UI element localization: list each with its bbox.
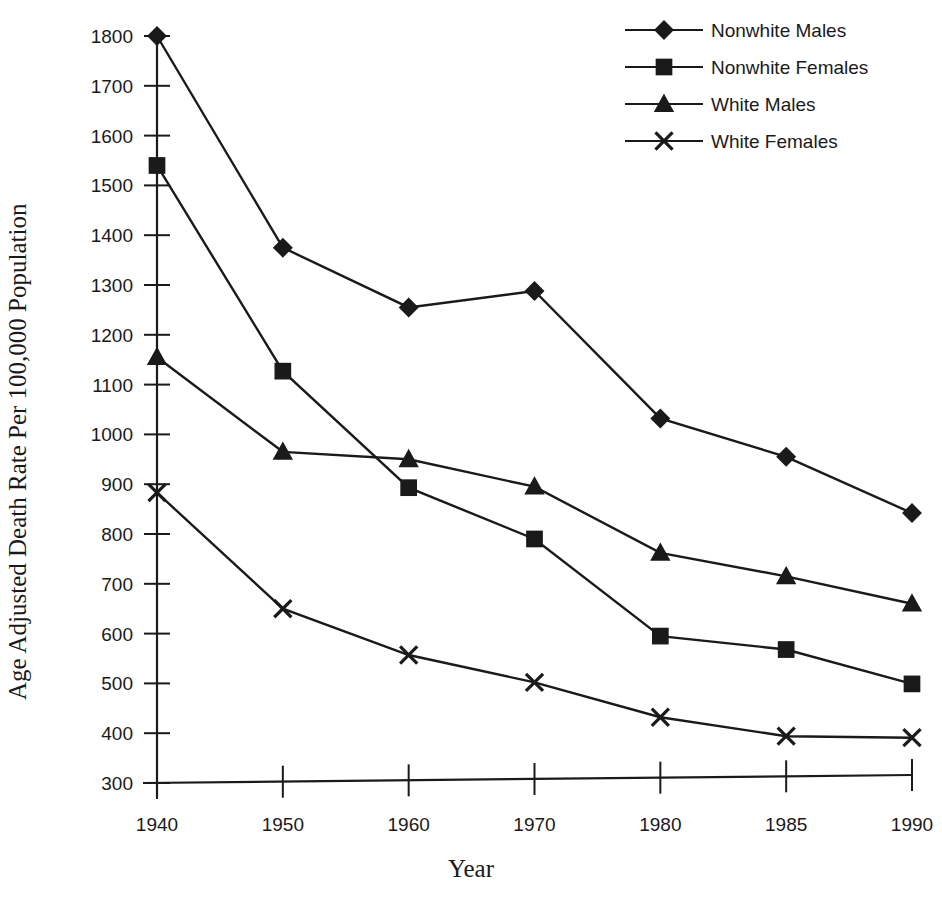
- marker-triangle: [651, 544, 669, 560]
- legend-item-nonwhite-males[interactable]: Nonwhite Males: [625, 20, 846, 41]
- marker-square: [656, 59, 671, 74]
- y-tick-label: 400: [101, 723, 133, 744]
- y-tick-label: 1200: [91, 325, 133, 346]
- marker-square: [401, 480, 416, 495]
- marker-diamond: [903, 504, 921, 522]
- x-axis-line: [143, 775, 912, 783]
- marker-triangle: [274, 443, 292, 459]
- chart-figure: Age Adjusted Death Rate Per 100,000 Popu…: [0, 0, 942, 897]
- y-tick-label: 600: [101, 624, 133, 645]
- marker-square: [779, 642, 794, 657]
- y-tick-label: 800: [101, 524, 133, 545]
- y-tick-label: 1600: [91, 126, 133, 147]
- marker-diamond: [274, 239, 292, 257]
- y-tick-label: 1400: [91, 225, 133, 246]
- legend-item-nonwhite-females[interactable]: Nonwhite Females: [625, 57, 868, 78]
- x-tick-label: 1985: [765, 814, 807, 835]
- x-tick-label: 1970: [513, 814, 555, 835]
- marker-square: [149, 158, 164, 173]
- marker-triangle: [148, 348, 166, 364]
- marker-square: [527, 531, 542, 546]
- x-tick-label: 1980: [639, 814, 681, 835]
- legend-item-white-males[interactable]: White Males: [625, 94, 816, 115]
- x-tick-group: 1940195019601970198019851990: [136, 759, 933, 835]
- y-tick-label: 1700: [91, 76, 133, 97]
- x-tick-label: 1950: [262, 814, 304, 835]
- y-tick-label: 900: [101, 474, 133, 495]
- marker-square: [653, 628, 668, 643]
- legend-item-white-females[interactable]: White Females: [625, 131, 838, 152]
- marker-diamond: [148, 27, 166, 45]
- series-white-females: [148, 484, 920, 746]
- marker-diamond: [655, 21, 673, 39]
- legend-label: White Females: [711, 131, 838, 152]
- y-tick-label: 700: [101, 574, 133, 595]
- x-axis-title: Year: [448, 855, 495, 882]
- y-tick-label: 500: [101, 673, 133, 694]
- marker-square: [904, 676, 919, 691]
- series-polyline: [157, 165, 912, 683]
- legend-label: Nonwhite Females: [711, 57, 868, 78]
- chart-legend: Nonwhite MalesNonwhite FemalesWhite Male…: [625, 20, 868, 152]
- y-tick-label: 300: [101, 773, 133, 794]
- legend-label: Nonwhite Males: [711, 20, 846, 41]
- x-tick-label: 1990: [891, 814, 933, 835]
- marker-diamond: [400, 298, 418, 316]
- y-tick-label: 1300: [91, 275, 133, 296]
- y-axis-title: Age Adjusted Death Rate Per 100,000 Popu…: [4, 203, 31, 700]
- legend-label: White Males: [711, 94, 816, 115]
- x-tick-label: 1960: [388, 814, 430, 835]
- marker-diamond: [777, 448, 795, 466]
- series-nonwhite-females: [149, 158, 919, 692]
- line-chart-canvas: Age Adjusted Death Rate Per 100,000 Popu…: [0, 0, 942, 897]
- series-white-males: [148, 348, 921, 611]
- series-polyline: [157, 493, 912, 738]
- marker-square: [275, 364, 290, 379]
- y-tick-label: 1500: [91, 175, 133, 196]
- y-tick-group: 3004005006007008009001000110012001300140…: [91, 26, 170, 794]
- y-tick-label: 1100: [92, 375, 133, 396]
- y-tick-label: 1000: [91, 424, 133, 445]
- y-tick-label: 1800: [91, 26, 133, 47]
- x-tick-label: 1940: [136, 814, 178, 835]
